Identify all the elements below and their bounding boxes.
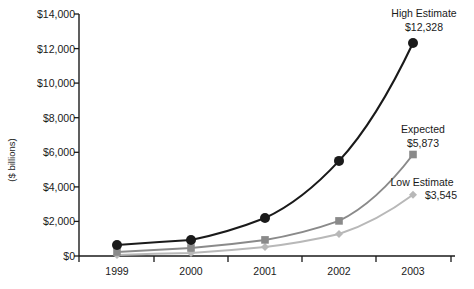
x-tick-label-1999: 1999	[105, 265, 129, 277]
marker-expected-2000	[187, 244, 195, 252]
x-tick-label-2002: 2002	[327, 265, 351, 277]
y-tick-label-2000: $2,000	[43, 215, 75, 227]
annotation-low-estimate-value: $3,545	[425, 189, 457, 201]
y-axis-title: ($ billions)	[6, 138, 17, 181]
y-tick-label-12000: $12,000	[37, 43, 75, 55]
annotation-high-estimate-name: High Estimate	[391, 7, 457, 19]
marker-high-1999	[112, 240, 122, 250]
y-tick-label-14000: $14,000	[37, 8, 75, 20]
y-tick-label-0: $0	[63, 250, 75, 262]
marker-expected-2002	[335, 217, 343, 225]
annotation-low-estimate-name: Low Estimate	[390, 176, 453, 188]
x-tick-label-2003: 2003	[401, 265, 425, 277]
annotation-high-estimate-value: $12,328	[405, 21, 443, 33]
x-tick-label-2001: 2001	[253, 265, 277, 277]
marker-high-2003	[408, 38, 418, 48]
marker-expected-2001	[261, 236, 269, 244]
y-tick-label-4000: $4,000	[43, 181, 75, 193]
x-tick-label-2000: 2000	[179, 265, 203, 277]
marker-high-2000	[186, 235, 196, 245]
y-tick-label-6000: $6,000	[43, 146, 75, 158]
annotation-expected-value: $5,873	[407, 137, 439, 149]
marker-high-2001	[260, 213, 270, 223]
y-tick-label-8000: $8,000	[43, 112, 75, 124]
marker-expected-2003	[409, 151, 417, 159]
y-tick-label-10000: $10,000	[37, 77, 75, 89]
annotation-expected-name: Expected	[401, 123, 445, 135]
line-chart: ($ billions) $0 $2,000 $4,000 $6,000 $8,…	[0, 0, 474, 289]
marker-high-2002	[334, 156, 344, 166]
chart-container: ($ billions) $0 $2,000 $4,000 $6,000 $8,…	[0, 0, 474, 289]
